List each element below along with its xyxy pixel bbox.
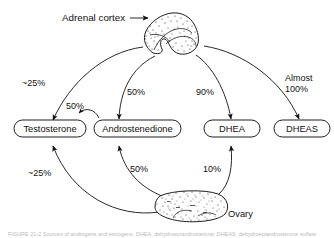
adrenal-cortex-label: Adrenal cortex — [62, 12, 125, 23]
adrenal-dheas-pct-line2: 100% — [285, 84, 308, 94]
ovary-organ — [155, 191, 228, 222]
node-label-androstenedione: Androstenedione — [102, 124, 172, 134]
node-label-dheas: DHEAS — [286, 124, 318, 134]
ovary-dhea-pct: 10% — [203, 164, 221, 174]
adrenal-testosterone-pct: ~25% — [22, 78, 45, 88]
adrenal-dheas-pct-line1: Almost — [285, 73, 313, 83]
node-label-dhea: DHEA — [219, 124, 246, 134]
figure-caption: FIGURE 21-2 Sources of androgens and est… — [8, 231, 328, 237]
adrenal-cortex-organ — [144, 13, 198, 54]
node-dheas[interactable]: DHEAS — [274, 120, 330, 137]
ovary-androstenedione-pct: 50% — [130, 164, 148, 174]
ovary-label: Ovary — [228, 209, 253, 219]
ovary-to-testosterone-arrow — [53, 146, 159, 213]
node-label-testosterone: Testosterone — [23, 124, 76, 134]
node-dhea[interactable]: DHEA — [204, 120, 260, 137]
node-testosterone[interactable]: Testosterone — [14, 120, 86, 137]
figure-canvas: Testosterone Androstenedione DHEA DHEAS … — [0, 0, 334, 238]
androgen-source-diagram: Testosterone Androstenedione DHEA DHEAS … — [0, 0, 334, 238]
adrenal-androstenedione-pct: 50% — [127, 87, 145, 97]
ovary-testosterone-pct: ~25% — [28, 168, 51, 178]
adrenal-dhea-pct: 90% — [196, 87, 214, 97]
conversion-pct: 50% — [66, 101, 84, 111]
node-androstenedione[interactable]: Androstenedione — [94, 120, 181, 137]
